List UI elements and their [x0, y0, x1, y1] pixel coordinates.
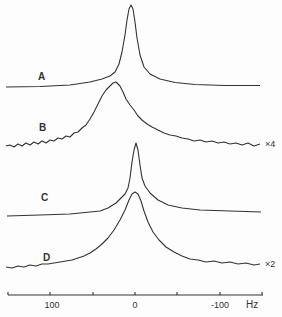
x-tick-minus-100: -100 [211, 300, 229, 310]
spectrum-a-label: A [38, 71, 45, 82]
nmr-spectra-figure: A B C D ×4 ×2 100 0 -100 Hz [0, 0, 282, 317]
spectra-plot [0, 0, 282, 317]
spectrum-b-label: B [39, 122, 46, 133]
spectrum-d-scale-factor: ×2 [265, 259, 275, 269]
spectrum-c-trace [7, 143, 261, 216]
x-axis-unit-label: Hz [246, 299, 258, 310]
x-tick-0: 0 [132, 300, 137, 310]
spectrum-b-trace [6, 82, 260, 147]
spectrum-c-label: C [41, 192, 48, 203]
x-tick-100: 100 [44, 300, 59, 310]
spectrum-d-label: D [43, 252, 50, 263]
spectrum-b-scale-factor: ×4 [265, 139, 275, 149]
